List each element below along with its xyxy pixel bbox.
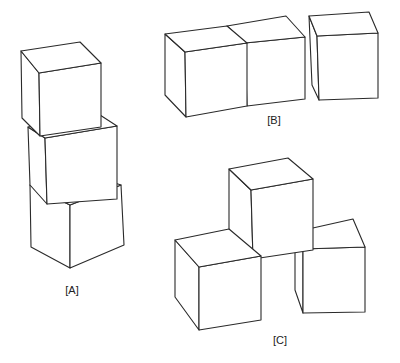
stack-b-left-cube <box>165 26 247 117</box>
cube-stacks-diagram <box>0 0 400 363</box>
stack-a <box>21 42 124 268</box>
stack-c-label: [C] <box>273 334 287 346</box>
stack-b-label: [B] <box>267 114 280 126</box>
stack-c <box>175 158 365 330</box>
stack-b <box>165 12 378 117</box>
stack-a-label: [A] <box>65 284 78 296</box>
stack-b-right-cube <box>309 12 378 100</box>
stack-a-top-cube <box>21 42 101 136</box>
